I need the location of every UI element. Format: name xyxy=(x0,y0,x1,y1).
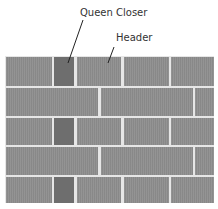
leader-lines xyxy=(0,0,218,209)
header-leader-line xyxy=(108,47,114,63)
queen-closer-leader-line xyxy=(68,20,83,63)
